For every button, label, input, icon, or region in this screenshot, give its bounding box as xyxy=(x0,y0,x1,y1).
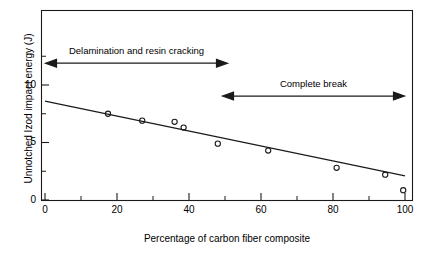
plot-frame xyxy=(42,11,413,201)
data-point xyxy=(172,119,177,124)
plot-canvas xyxy=(0,0,425,254)
x-minor-ticks xyxy=(81,196,369,200)
x-tick-label-40: 40 xyxy=(177,204,201,215)
data-point xyxy=(266,148,271,153)
complete-break-annotation-label: Complete break xyxy=(222,78,405,89)
data-point xyxy=(401,188,406,193)
trend-line xyxy=(45,101,405,176)
data-point xyxy=(383,172,388,177)
data-point xyxy=(215,141,220,146)
delamination-annotation-label: Delamination and resin cracking xyxy=(45,45,228,56)
y-axis-label: Unnotched Izod impact energy (J) xyxy=(23,24,34,194)
y-tick-label-0: 0 xyxy=(20,194,36,205)
y-minor-ticks xyxy=(42,56,46,171)
chart-figure: 0 5 10 0 20 40 60 80 100 Unnotched Izod … xyxy=(0,0,425,254)
x-tick-label-100: 100 xyxy=(390,204,420,215)
x-tick-label-20: 20 xyxy=(105,204,129,215)
delamination-arrow xyxy=(46,59,228,67)
x-tick-label-60: 60 xyxy=(249,204,273,215)
x-tick-label-0: 0 xyxy=(35,204,55,215)
x-tick-label-80: 80 xyxy=(321,204,345,215)
x-axis-label: Percentage of carbon fiber composite xyxy=(41,233,413,244)
data-point xyxy=(334,165,339,170)
complete-break-arrow xyxy=(223,92,405,100)
